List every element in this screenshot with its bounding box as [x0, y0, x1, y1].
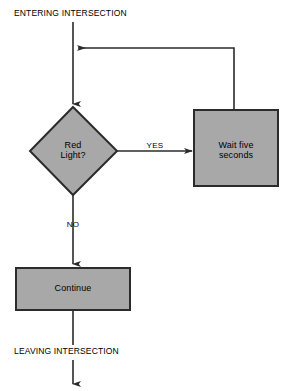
flowchart-diagram: ENTERING INTERSECTION Red Light? Wait fi…: [0, 0, 293, 391]
edge-wait-loopback: [78, 48, 234, 110]
process-wait-shape: [194, 110, 278, 186]
flowchart-canvas: [0, 0, 293, 391]
process-continue-shape: [16, 268, 130, 310]
decision-red-light-shape: [30, 107, 117, 195]
